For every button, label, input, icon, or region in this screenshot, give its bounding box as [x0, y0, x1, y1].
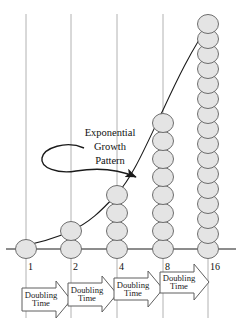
diagram-canvas: Exponential Growth Pattern 1 2 4 8 16 Do…: [0, 0, 240, 327]
doubling-arrow-line-2: Time: [32, 298, 50, 308]
tick-label-8: 8: [165, 261, 170, 272]
unit-circle: [153, 186, 174, 205]
unit-circle: [153, 222, 174, 241]
unit-circle: [153, 204, 174, 223]
annotation-line-1: Exponential: [85, 127, 136, 138]
circle-stack-1: [16, 240, 37, 259]
circle-stack-4: [107, 186, 128, 259]
doubling-time-arrow-1: Doubling Time: [22, 281, 71, 318]
unit-circle: [61, 222, 82, 241]
tick-label-4: 4: [119, 261, 124, 272]
annotation-line-2: Growth: [94, 141, 127, 152]
doubling-time-arrow-2: Doubling Time: [68, 276, 117, 312]
circle-stack-8: [153, 114, 174, 259]
unit-circle: [153, 114, 174, 133]
unit-circle: [198, 15, 219, 34]
doubling-time-arrow-3: Doubling Time: [114, 271, 163, 307]
unit-circle: [153, 168, 174, 187]
unit-circle: [153, 132, 174, 151]
tick-label-2: 2: [73, 261, 78, 272]
unit-circle: [107, 186, 128, 205]
tick-label-16: 16: [210, 261, 220, 272]
circle-stack-16: [198, 15, 219, 259]
unit-circle: [16, 240, 37, 259]
unit-circle: [107, 240, 128, 259]
tick-label-1: 1: [28, 261, 33, 272]
doubling-arrow-line-2: Time: [124, 288, 142, 298]
circle-stack-2: [61, 222, 82, 259]
unit-circle: [107, 222, 128, 241]
exponential-growth-diagram: Exponential Growth Pattern 1 2 4 8 16 Do…: [0, 0, 240, 327]
unit-circle: [153, 240, 174, 259]
unit-circle: [153, 150, 174, 169]
doubling-arrow-line-2: Time: [78, 293, 96, 303]
unit-circle: [61, 240, 82, 259]
doubling-arrow-line-2: Time: [170, 281, 188, 291]
unit-circle: [107, 204, 128, 223]
annotation-line-3: Pattern: [95, 155, 125, 166]
